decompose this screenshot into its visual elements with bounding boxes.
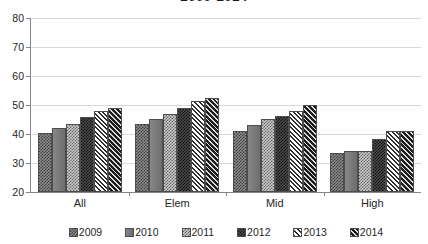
bar-all-2009[interactable] xyxy=(38,133,52,192)
bar-high-2012[interactable] xyxy=(372,139,386,192)
legend-swatch-2010 xyxy=(125,228,134,237)
legend-label-2012: 2012 xyxy=(247,227,270,237)
bar-all-2010[interactable] xyxy=(52,128,66,192)
bar-mid-2013[interactable] xyxy=(289,111,303,192)
bar-elem-2013[interactable] xyxy=(191,101,205,192)
bar-elem-2012[interactable] xyxy=(177,108,191,192)
legend-label-2013: 2013 xyxy=(303,227,326,237)
bar-group-high xyxy=(324,18,422,192)
legend-item-2011[interactable]: 2011 xyxy=(182,227,215,237)
legend-item-2009[interactable]: 2009 xyxy=(69,227,102,237)
y-tick-label: 30 xyxy=(2,158,24,168)
bar-group-all xyxy=(31,18,129,192)
bar-chart: 2009-2014 20304050607080 AllElemMidHigh … xyxy=(0,0,428,244)
bar-elem-2014[interactable] xyxy=(205,98,219,192)
legend-item-2014[interactable]: 2014 xyxy=(350,227,383,237)
bar-high-2011[interactable] xyxy=(358,151,372,192)
y-axis-labels: 20304050607080 xyxy=(0,0,24,244)
bar-high-2009[interactable] xyxy=(330,153,344,192)
plot-area xyxy=(31,18,421,192)
bar-mid-2011[interactable] xyxy=(261,119,275,192)
bar-mid-2009[interactable] xyxy=(233,131,247,192)
legend-swatch-2013 xyxy=(293,228,302,237)
x-tick-mark xyxy=(324,192,325,196)
y-tick-label: 50 xyxy=(2,100,24,110)
legend-swatch-2012 xyxy=(237,228,246,237)
legend-label-2014: 2014 xyxy=(360,227,383,237)
x-label-mid: Mid xyxy=(226,197,324,209)
chart-legend: 200920102011201220132014 xyxy=(31,224,421,240)
bar-all-2013[interactable] xyxy=(94,111,108,192)
bar-mid-2014[interactable] xyxy=(303,105,317,192)
x-tick-mark xyxy=(129,192,130,196)
y-tick-label: 20 xyxy=(2,187,24,197)
legend-label-2009: 2009 xyxy=(79,227,102,237)
legend-item-2010[interactable]: 2010 xyxy=(125,227,158,237)
legend-label-2011: 2011 xyxy=(192,227,215,237)
bar-mid-2010[interactable] xyxy=(247,125,261,192)
x-label-elem: Elem xyxy=(129,197,227,209)
bar-all-2014[interactable] xyxy=(108,108,122,192)
x-label-high: High xyxy=(324,197,422,209)
bar-mid-2012[interactable] xyxy=(275,116,289,192)
legend-swatch-2011 xyxy=(182,228,191,237)
y-tick-label: 40 xyxy=(2,129,24,139)
x-tick-mark xyxy=(226,192,227,196)
legend-item-2013[interactable]: 2013 xyxy=(293,227,326,237)
y-tick-label: 60 xyxy=(2,71,24,81)
y-axis-line xyxy=(30,18,31,193)
legend-swatch-2009 xyxy=(69,228,78,237)
legend-swatch-2014 xyxy=(350,228,359,237)
legend-item-2012[interactable]: 2012 xyxy=(237,227,270,237)
bar-high-2014[interactable] xyxy=(400,131,414,192)
y-tick-label: 70 xyxy=(2,42,24,52)
x-label-all: All xyxy=(31,197,129,209)
x-axis-labels: AllElemMidHigh xyxy=(31,195,421,213)
bar-all-2011[interactable] xyxy=(66,124,80,192)
y-tick-label: 80 xyxy=(2,13,24,23)
bar-elem-2009[interactable] xyxy=(135,124,149,192)
bar-elem-2011[interactable] xyxy=(163,114,177,192)
chart-title: 2009-2014 xyxy=(0,0,428,4)
bar-all-2012[interactable] xyxy=(80,117,94,192)
bar-high-2013[interactable] xyxy=(386,131,400,192)
bar-elem-2010[interactable] xyxy=(149,119,163,192)
legend-label-2010: 2010 xyxy=(135,227,158,237)
bar-high-2010[interactable] xyxy=(344,151,358,192)
bar-group-elem xyxy=(129,18,227,192)
bar-group-mid xyxy=(226,18,324,192)
